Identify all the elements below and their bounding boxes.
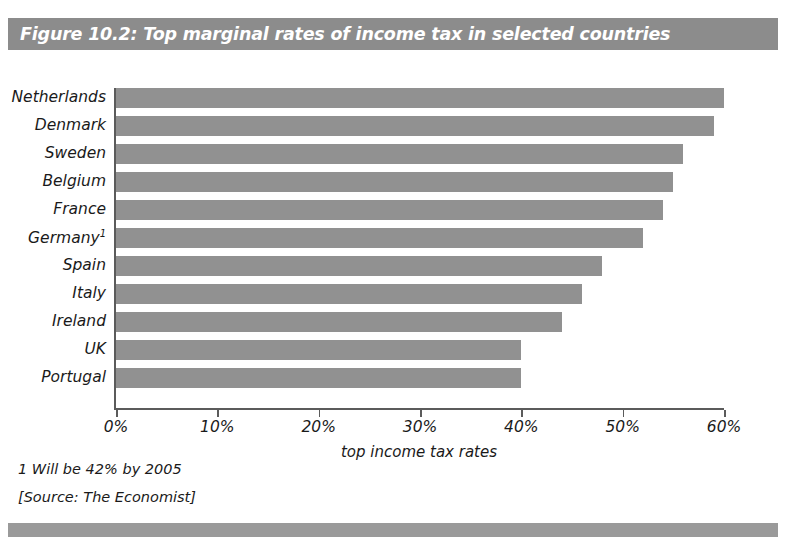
x-axis-tick-label: 50% [605, 418, 639, 436]
bar-row: Ireland [116, 312, 724, 332]
x-axis-tick-label: 40% [504, 418, 538, 436]
bar [116, 144, 683, 164]
x-axis-tick [724, 410, 726, 417]
bar-row: France [116, 200, 724, 220]
bar-category-label: Germany1 [28, 228, 106, 247]
bar-category-label: Spain [63, 256, 106, 274]
bar [116, 116, 714, 136]
bar-row: Germany1 [116, 228, 724, 248]
bar-row: Netherlands [116, 88, 724, 108]
x-axis-tick-label: 0% [104, 418, 129, 436]
bar-category-label: France [53, 200, 106, 218]
bar [116, 312, 562, 332]
bar-row: Denmark [116, 116, 724, 136]
bar-category-label: Ireland [52, 312, 106, 330]
bar [116, 172, 673, 192]
bar [116, 228, 643, 248]
bars-group: NetherlandsDenmarkSwedenBelgiumFranceGer… [116, 88, 736, 408]
chart-plot-area: NetherlandsDenmarkSwedenBelgiumFranceGer… [0, 60, 790, 430]
x-axis-tick [319, 410, 321, 417]
bar-row: Portugal [116, 368, 724, 388]
x-axis-tick [420, 410, 422, 417]
figure-title-banner: Figure 10.2: Top marginal rates of incom… [8, 18, 778, 50]
x-axis-tick [521, 410, 523, 417]
bar [116, 368, 521, 388]
bar-category-label: Denmark [35, 116, 106, 134]
figure-container: Figure 10.2: Top marginal rates of incom… [0, 0, 790, 551]
bar [116, 284, 582, 304]
bar-row: Italy [116, 284, 724, 304]
x-axis-line [114, 408, 724, 410]
footnote-text: 1 Will be 42% by 2005 [18, 461, 182, 477]
bar-category-label: UK [84, 340, 106, 358]
x-axis-tick-label: 20% [301, 418, 335, 436]
bar-category-label: Portugal [41, 368, 106, 386]
bar-row: Belgium [116, 172, 724, 192]
x-axis-tick [623, 410, 625, 417]
bar-category-label: Belgium [42, 172, 106, 190]
x-axis-tick-label: 60% [707, 418, 741, 436]
bar-category-label: Italy [72, 284, 106, 302]
footnote-marker: 1 [100, 228, 106, 239]
bar-row: Spain [116, 256, 724, 276]
bar [116, 256, 602, 276]
bar-row: UK [116, 340, 724, 360]
x-axis-tick-label: 10% [200, 418, 234, 436]
x-axis-title: top income tax rates [341, 443, 497, 461]
bar-category-label: Netherlands [12, 88, 106, 106]
bar-category-label: Sweden [45, 144, 106, 162]
figure-footer-bar [8, 523, 778, 537]
bar [116, 340, 521, 360]
x-axis-tick [116, 410, 118, 417]
bar [116, 88, 724, 108]
bar-row: Sweden [116, 144, 724, 164]
bar [116, 200, 663, 220]
page-title: Figure 10.2: Top marginal rates of incom… [20, 24, 670, 44]
x-axis-tick [217, 410, 219, 417]
source-text: [Source: The Economist] [18, 489, 196, 505]
x-axis-tick-label: 30% [403, 418, 437, 436]
